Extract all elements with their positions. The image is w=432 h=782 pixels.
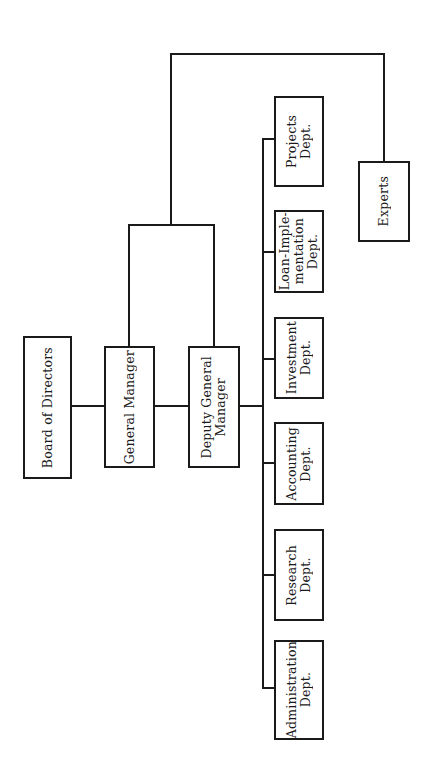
connector-board-gm (71, 405, 105, 407)
node-deputy-general-manager: Deputy General Manager (188, 346, 240, 468)
department-bus (262, 138, 264, 689)
node-experts: Experts (358, 161, 410, 242)
node-administration-dept: Administration Dept. (274, 640, 324, 740)
node-label: Research Dept. (285, 545, 313, 606)
connector-deputy-bus (239, 405, 264, 407)
node-label: Projects Dept. (285, 98, 313, 185)
node-investment-dept: Investment Dept. (274, 317, 324, 399)
connector-experts (383, 53, 385, 161)
node-label: Investment Dept. (285, 321, 313, 394)
node-label: Administration Dept. (285, 641, 313, 738)
org-chart: Board of Directors General Manager Deput… (0, 0, 432, 782)
node-label: Board of Directors (41, 347, 55, 468)
node-research-dept: Research Dept. (274, 529, 324, 621)
node-label: Loan-Imple- mentation Dept. (278, 212, 320, 290)
node-accounting-dept: Accounting Dept. (274, 422, 324, 505)
connector-gm-deputy (154, 405, 189, 407)
connector-bracket-up (170, 53, 172, 225)
node-projects-dept: Projects Dept. (274, 96, 324, 187)
connector-gm-up (128, 224, 130, 346)
node-label: Experts (377, 176, 391, 226)
node-board-of-directors: Board of Directors (23, 336, 72, 479)
connector-top (170, 53, 385, 55)
connector-deputy-up (213, 224, 215, 346)
node-general-manager: General Manager (104, 346, 155, 468)
node-loan-implementation-dept: Loan-Imple- mentation Dept. (274, 210, 324, 293)
node-label: General Manager (123, 350, 137, 464)
node-label: Deputy General Manager (200, 356, 228, 459)
node-label: Accounting Dept. (285, 427, 313, 501)
